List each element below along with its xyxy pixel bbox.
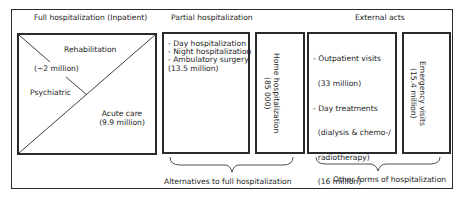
- home-hospitalization-name: Home hospitalization: [272, 53, 281, 133]
- external-acts-title: External acts: [355, 13, 405, 22]
- list-item: (33 million): [313, 80, 391, 88]
- list-item: radiotherapy): [313, 154, 391, 162]
- other-forms-brace-label: Other forms of hospitalization: [333, 175, 446, 184]
- acute-care-label: Acute care (9.9 million): [92, 109, 152, 127]
- rehabilitation-count: (~2 million): [34, 64, 79, 73]
- list-item: - Day treatments: [313, 105, 391, 113]
- external-acts-list: - Outpatient visits (33 million) - Day t…: [313, 39, 391, 195]
- rehabilitation-label: Rehabilitation: [64, 45, 116, 54]
- acute-care-name: Acute care: [92, 109, 152, 118]
- psychiatric-label: Psychiatric: [30, 88, 71, 97]
- partial-hospitalization-list: - Day hospitalization - Night hospitaliz…: [168, 40, 251, 73]
- full-hospitalization-title: Full hospitalization (Inpatient): [34, 13, 147, 22]
- list-item: (dialysis & chemo-/: [313, 129, 391, 137]
- list-item: (13.5 million): [168, 65, 251, 73]
- emergency-visits-name: Emergency visits: [418, 61, 427, 126]
- list-item: - Outpatient visits: [313, 55, 391, 63]
- emergency-visits-label: Emergency visits (15.4 million): [409, 58, 427, 128]
- home-hospitalization-count: (85 000): [263, 77, 272, 110]
- emergency-visits-count: (15.4 million): [409, 68, 418, 119]
- partial-hospitalization-title: Partial hospitalization: [171, 13, 253, 22]
- alternatives-brace-label: Alternatives to full hospitalization: [164, 177, 292, 186]
- home-hospitalization-label: Home hospitalization (85 000): [263, 48, 281, 138]
- acute-care-count: (9.9 million): [92, 118, 152, 127]
